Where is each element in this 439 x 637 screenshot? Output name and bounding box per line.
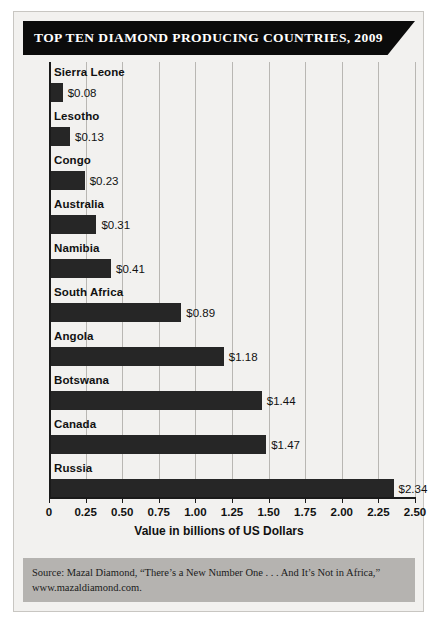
page-title: TOP TEN DIAMOND PRODUCING COUNTRIES, 200… [23, 30, 383, 46]
tick-label: 1.00 [184, 506, 206, 518]
gridline [415, 62, 416, 497]
bar-value-label: $0.41 [116, 263, 145, 275]
bar-group: $2.34 [51, 479, 427, 498]
tick-mark [49, 497, 50, 503]
bar [51, 435, 266, 454]
bar-value-label: $1.44 [267, 395, 296, 407]
category-label: Botswana [54, 374, 109, 386]
tick-label: 0.75 [148, 506, 170, 518]
tick-label: 2.50 [404, 506, 426, 518]
bar [51, 259, 111, 278]
source-line-1: Source: Mazal Diamond, “There’s a New Nu… [32, 565, 415, 580]
tick-mark [232, 497, 233, 503]
category-label: Namibia [54, 242, 99, 254]
bar-row: Namibia$0.41 [23, 242, 415, 286]
category-label: Russia [54, 462, 92, 474]
bar-group: $0.31 [51, 215, 130, 234]
tick-mark [195, 497, 196, 503]
bar-value-label: $0.13 [75, 131, 104, 143]
bar-group: $0.08 [51, 83, 96, 102]
bar [51, 127, 70, 146]
bar-row: Lesotho$0.13 [23, 110, 415, 154]
bar [51, 347, 224, 366]
tick-label: 1.25 [221, 506, 243, 518]
bar-row: South Africa$0.89 [23, 286, 415, 330]
tick-mark [122, 497, 123, 503]
bar-value-label: $0.23 [90, 175, 119, 187]
category-label: Sierra Leone [54, 66, 125, 78]
tick-label: 2.00 [331, 506, 353, 518]
source-note: Source: Mazal Diamond, “There’s a New Nu… [23, 558, 415, 602]
bar-group: $0.23 [51, 171, 118, 190]
bar [51, 171, 85, 190]
bar-group: $1.44 [51, 391, 296, 410]
bar-value-label: $0.08 [68, 87, 97, 99]
category-label: Lesotho [54, 110, 99, 122]
bar-group: $0.89 [51, 303, 215, 322]
tick-label: 0 [46, 506, 52, 518]
tick-mark [86, 497, 87, 503]
bar-row: Botswana$1.44 [23, 374, 415, 418]
bar [51, 303, 181, 322]
bar-group: $0.41 [51, 259, 145, 278]
bar-value-label: $0.89 [186, 307, 215, 319]
bar-row: Australia$0.31 [23, 198, 415, 242]
x-axis: 00.250.500.751.001.251.501.752.002.252.5… [23, 497, 415, 543]
tick-mark [342, 497, 343, 503]
category-label: Angola [54, 330, 94, 342]
tick-mark [159, 497, 160, 503]
bar-value-label: $1.18 [229, 351, 258, 363]
tick-label: 0.25 [74, 506, 96, 518]
category-label: Congo [54, 154, 91, 166]
category-label: Canada [54, 418, 96, 430]
bar [51, 215, 96, 234]
bar-row: Sierra Leone$0.08 [23, 66, 415, 110]
bar-group: $1.18 [51, 347, 258, 366]
tick-label: 0.50 [111, 506, 133, 518]
bar-value-label: $1.47 [271, 439, 300, 451]
tick-label: 2.25 [367, 506, 389, 518]
bar [51, 391, 262, 410]
bar-value-label: $2.34 [399, 483, 428, 495]
bar-value-label: $0.31 [101, 219, 130, 231]
bar-row: Angola$1.18 [23, 330, 415, 374]
bar-group: $1.47 [51, 435, 300, 454]
category-label: South Africa [54, 286, 123, 298]
bar-row: Canada$1.47 [23, 418, 415, 462]
tick-mark [415, 497, 416, 503]
chart-card: TOP TEN DIAMOND PRODUCING COUNTRIES, 200… [13, 11, 424, 612]
bar [51, 479, 394, 498]
x-axis-title: Value in billions of US Dollars [23, 524, 415, 538]
category-label: Australia [54, 198, 104, 210]
tick-mark [305, 497, 306, 503]
tick-label: 1.75 [294, 506, 316, 518]
source-line-2: www.mazaldiamond.com. [32, 580, 415, 595]
bar-group: $0.13 [51, 127, 104, 146]
tick-mark [378, 497, 379, 503]
tick-label: 1.50 [257, 506, 279, 518]
plot-area: Sierra Leone$0.08Lesotho$0.13Congo$0.23A… [23, 62, 415, 517]
chart-title-banner: TOP TEN DIAMOND PRODUCING COUNTRIES, 200… [23, 21, 415, 55]
bar [51, 83, 63, 102]
tick-mark [269, 497, 270, 503]
bar-row: Congo$0.23 [23, 154, 415, 198]
